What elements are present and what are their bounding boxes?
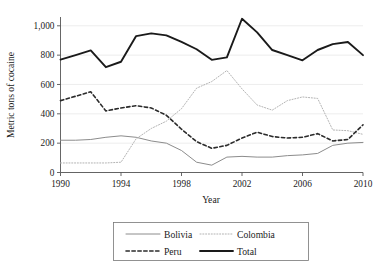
chart-svg: 02004006008001,000 199019941998200220062…	[0, 0, 377, 269]
x-tick-label: 1994	[112, 179, 131, 189]
y-tick-label: 0	[50, 168, 55, 178]
x-tick-label: 2006	[293, 179, 312, 189]
legend-label-colombia: Colombia	[237, 229, 276, 240]
legend-label-peru: Peru	[164, 246, 182, 257]
legend: Bolivia Colombia Peru Total	[114, 223, 309, 261]
y-axis-title: Metric tons of cocaine	[5, 52, 16, 138]
series-line-bolivia	[61, 136, 364, 165]
x-tick-label: 1998	[172, 179, 191, 189]
legend-label-bolivia: Bolivia	[164, 229, 193, 240]
x-tick-label: 2002	[233, 179, 252, 189]
y-tick-label: 200	[41, 138, 55, 148]
series-line-peru	[61, 92, 364, 148]
x-tick-label: 1990	[51, 179, 70, 189]
legend-label-total: Total	[237, 246, 257, 257]
y-ticks	[57, 26, 61, 173]
legend-border	[114, 223, 309, 261]
y-tick-label: 400	[41, 109, 55, 119]
legend-entry-peru[interactable]: Peru	[126, 246, 182, 257]
y-tick-label: 800	[41, 50, 55, 60]
legend-entry-colombia[interactable]: Colombia	[200, 229, 276, 240]
cocaine-production-chart: 02004006008001,000 199019941998200220062…	[0, 0, 377, 269]
legend-entry-bolivia[interactable]: Bolivia	[126, 229, 193, 240]
x-tick-labels: 199019941998200220062010	[51, 179, 372, 189]
y-tick-label: 600	[41, 80, 55, 90]
legend-entry-total[interactable]: Total	[200, 246, 257, 257]
x-axis-title: Year	[202, 194, 220, 205]
x-ticks	[61, 173, 364, 177]
x-tick-label: 2010	[354, 179, 373, 189]
y-tick-label: 1,000	[34, 21, 55, 31]
y-tick-labels: 02004006008001,000	[34, 21, 55, 178]
